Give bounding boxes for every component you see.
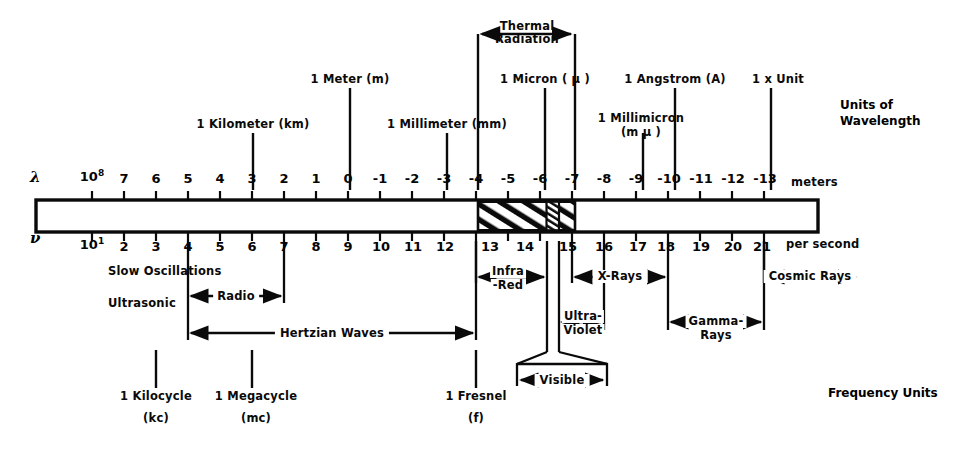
tick-frequency-8: 8 bbox=[311, 240, 320, 253]
label-cosmic-rays: Cosmic Rays bbox=[764, 270, 857, 283]
tick-wavelength-2: 2 bbox=[279, 172, 288, 185]
tick-frequency-11: 11 bbox=[404, 240, 422, 253]
tick-frequency-4: 4 bbox=[183, 240, 192, 253]
tick-wavelength-m2: -2 bbox=[405, 172, 419, 185]
units-of-wavelength-title-line1: Units of bbox=[840, 98, 893, 112]
units-of-wavelength-title-line2: Wavelength bbox=[840, 114, 921, 128]
tick-wavelength-m9: -9 bbox=[629, 172, 643, 185]
tick-wavelength-m6: -6 bbox=[533, 172, 547, 185]
tick-wavelength-m10: -10 bbox=[657, 172, 681, 185]
tick-frequency-5: 5 bbox=[215, 240, 224, 253]
label-angstrom: 1 Angstrom (A) bbox=[624, 73, 725, 86]
label-millimicron-line2: (m µ ) bbox=[621, 126, 661, 139]
label-x-unit: 1 x Unit bbox=[752, 73, 804, 86]
tick-frequency-2: 2 bbox=[119, 240, 128, 253]
label-ultraviolet-line1: Ultra- bbox=[562, 310, 604, 323]
tick-wavelength-1: 1 bbox=[311, 172, 320, 185]
thermal-radiation-bracket bbox=[478, 34, 575, 190]
label-fresnel-line1: 1 Fresnel bbox=[445, 390, 506, 403]
label-radio: Radio bbox=[213, 290, 259, 303]
tick-frequency-6: 6 bbox=[247, 240, 256, 253]
tick-frequency-17: 17 bbox=[629, 240, 647, 253]
tick-wavelength-7: 7 bbox=[119, 172, 128, 185]
label-hertzian-waves: Hertzian Waves bbox=[275, 327, 389, 340]
tick-wavelength-m11: -11 bbox=[689, 172, 713, 185]
spectrum-chart: λ ν 108 7 6 5 4 3 2 1 0 -1 -2 -3 -4 -5 -… bbox=[0, 0, 953, 455]
chart-linework bbox=[0, 0, 953, 455]
tick-wavelength-5: 5 bbox=[183, 172, 192, 185]
frequency-marker-stems bbox=[156, 350, 476, 388]
label-xrays: X-Rays bbox=[593, 270, 648, 283]
tick-frequency-7: 7 bbox=[279, 240, 288, 253]
label-gamma-line1: Gamma- bbox=[686, 315, 747, 328]
meters-unit-label: meters bbox=[791, 176, 838, 189]
tick-frequency-19: 19 bbox=[692, 240, 710, 253]
tick-frequency-10: 10 bbox=[372, 240, 390, 253]
frequency-units-title: Frequency Units bbox=[828, 386, 938, 400]
label-megacycle-line2: (mc) bbox=[241, 412, 271, 425]
label-slow-oscillations: Slow Oscillations bbox=[108, 265, 222, 278]
label-thermal-line1: Thermal bbox=[500, 20, 555, 33]
label-visible: Visible bbox=[535, 374, 590, 387]
tick-frequency-9: 9 bbox=[343, 240, 352, 253]
label-kilometer: 1 Kilometer (km) bbox=[197, 118, 310, 131]
label-infrared-line1: Infra bbox=[490, 265, 526, 278]
tick-frequency-18: 18 bbox=[657, 240, 675, 253]
tick-wavelength-m7: -7 bbox=[565, 172, 579, 185]
tick-wavelength-m1: -1 bbox=[373, 172, 387, 185]
thermal-hatch-region bbox=[478, 202, 575, 231]
tick-frequency-15: 15 bbox=[559, 240, 577, 253]
tick-frequency-21: 21 bbox=[753, 240, 771, 253]
visible-light-band bbox=[547, 202, 560, 231]
tick-wavelength-6: 6 bbox=[151, 172, 160, 185]
tick-frequency-3: 3 bbox=[151, 240, 160, 253]
label-millimeter: 1 Millimeter (mm) bbox=[387, 118, 507, 131]
lambda-symbol: λ bbox=[30, 168, 41, 186]
tick-wavelength-3: 3 bbox=[247, 172, 256, 185]
label-kilocycle-line1: 1 Kilocycle bbox=[120, 390, 192, 403]
label-fresnel-line2: (f) bbox=[468, 412, 484, 425]
tick-frequency-16: 16 bbox=[595, 240, 613, 253]
nu-symbol: ν bbox=[30, 229, 40, 247]
label-micron: 1 Micron ( µ ) bbox=[500, 73, 590, 86]
tick-frequency-14: 14 bbox=[516, 240, 534, 253]
label-gamma-line2: Rays bbox=[697, 329, 734, 342]
tick-frequency-12: 12 bbox=[436, 240, 454, 253]
label-ultraviolet-line2: Violet bbox=[562, 324, 605, 337]
tick-frequency-20: 20 bbox=[724, 240, 742, 253]
tick-frequency-1: 101 bbox=[80, 238, 104, 251]
label-megacycle-line1: 1 Megacycle bbox=[215, 390, 297, 403]
tick-wavelength-m13: -13 bbox=[753, 172, 777, 185]
tick-wavelength-0: 0 bbox=[343, 172, 352, 185]
label-meter: 1 Meter (m) bbox=[311, 73, 390, 86]
tick-wavelength-m8: -8 bbox=[597, 172, 611, 185]
tick-wavelength-m3: -3 bbox=[437, 172, 451, 185]
label-kilocycle-line2: (kc) bbox=[143, 412, 169, 425]
per-second-unit-label: per second bbox=[786, 238, 860, 251]
label-millimicron-line1: 1 Millimicron bbox=[598, 112, 684, 125]
label-infrared-line2: -Red bbox=[491, 279, 525, 292]
tick-wavelength-8: 108 bbox=[80, 170, 104, 183]
label-thermal-line2: Radiation bbox=[495, 33, 559, 46]
spectrum-bar bbox=[36, 200, 818, 232]
tick-wavelength-m12: -12 bbox=[721, 172, 745, 185]
band-infrared-bracket bbox=[476, 241, 547, 352]
tick-wavelength-4: 4 bbox=[215, 172, 224, 185]
label-ultrasonic: Ultrasonic bbox=[108, 297, 176, 310]
tick-wavelength-m5: -5 bbox=[501, 172, 515, 185]
tick-frequency-13: 13 bbox=[481, 240, 499, 253]
tick-wavelength-m4: -4 bbox=[469, 172, 483, 185]
